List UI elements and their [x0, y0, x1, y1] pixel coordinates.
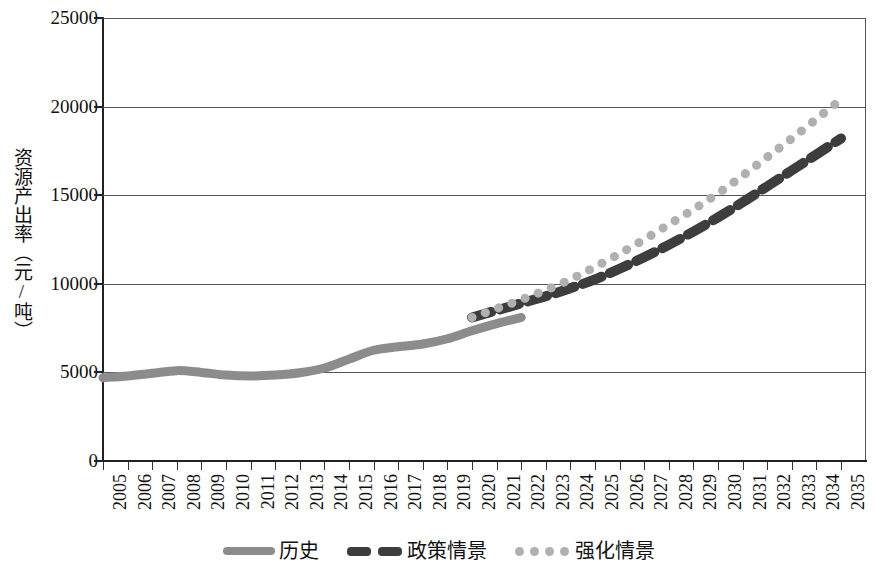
x-axis-tick-label: 2021	[505, 474, 523, 532]
x-axis-tick-label: 2022	[529, 474, 547, 532]
x-axis-tick-mark	[570, 462, 571, 470]
x-axis-tick-label: 2009	[209, 474, 227, 532]
x-axis-tick-label: 2016	[382, 474, 400, 532]
x-axis-tick-label: 2034	[824, 474, 842, 532]
y-axis-tick-mark	[94, 17, 103, 19]
x-axis-tick-mark	[497, 462, 498, 470]
x-axis-tick-label: 2027	[652, 474, 670, 532]
x-axis-tick-label: 2029	[701, 474, 719, 532]
x-axis-tick-label: 2011	[259, 474, 277, 532]
x-axis-tick-label: 2024	[578, 474, 596, 532]
x-axis-tick-mark	[718, 462, 719, 470]
y-axis-tick-mark	[94, 283, 103, 285]
x-axis-tick-mark	[447, 462, 448, 470]
x-axis-tick-mark	[349, 462, 350, 470]
legend-swatch-solid-icon	[223, 547, 275, 555]
x-axis-tick-label: 2017	[406, 474, 424, 532]
x-axis-tick-mark	[472, 462, 473, 470]
legend-entry[interactable]: 政策情景	[347, 541, 487, 561]
y-axis-tick-label: 0	[34, 451, 98, 470]
x-axis-tick-label: 2031	[751, 474, 769, 532]
y-axis-tick-mark	[94, 106, 103, 108]
y-axis-tick-mark	[94, 371, 103, 373]
x-axis-tick-mark	[423, 462, 424, 470]
x-axis-tick-mark	[275, 462, 276, 470]
x-axis-tick-mark	[398, 462, 399, 470]
x-axis-tick-label: 2014	[332, 474, 350, 532]
x-axis-tick-label: 2007	[160, 474, 178, 532]
chart-legend: 历史政策情景强化情景	[0, 536, 878, 566]
gridline	[103, 284, 866, 285]
x-axis-tick-mark	[546, 462, 547, 470]
x-axis-tick-mark	[693, 462, 694, 470]
y-axis-tick-label: 20000	[34, 97, 98, 116]
x-axis-tick-label: 2006	[136, 474, 154, 532]
gridline	[103, 107, 866, 108]
legend-label: 历史	[279, 541, 319, 561]
x-axis-tick-mark	[324, 462, 325, 470]
x-axis-tick-label: 2025	[603, 474, 621, 532]
legend-entry[interactable]: 强化情景	[515, 541, 655, 561]
x-axis-tick-mark	[792, 462, 793, 470]
plot-area	[103, 18, 866, 461]
x-axis-tick-mark	[226, 462, 227, 470]
x-axis-tick-mark	[201, 462, 202, 470]
x-axis-tick-mark	[816, 462, 817, 470]
resource-productivity-chart: 资源产出率（元/吨） 2500020000150001000050000 200…	[0, 0, 878, 567]
x-axis-tick-label: 2005	[111, 474, 129, 532]
gridline	[103, 372, 866, 373]
x-axis-tick-label: 2035	[849, 474, 867, 532]
y-axis-tick-labels: 2500020000150001000050000	[28, 0, 98, 480]
x-axis-tick-mark	[595, 462, 596, 470]
x-axis-tick-label: 2032	[775, 474, 793, 532]
x-axis-tick-label: 2008	[185, 474, 203, 532]
x-axis-tick-label: 2019	[455, 474, 473, 532]
legend-swatch-dashed-icon	[347, 547, 403, 556]
gridline	[103, 18, 866, 19]
x-axis-tick-mark	[374, 462, 375, 470]
x-axis-tick-label: 2033	[800, 474, 818, 532]
legend-entry[interactable]: 历史	[223, 541, 319, 561]
legend-label: 强化情景	[575, 541, 655, 561]
legend-swatch-dotted-icon	[515, 547, 571, 556]
x-axis-tick-label: 2015	[357, 474, 375, 532]
x-axis-tick-label: 2028	[677, 474, 695, 532]
x-axis-tick-mark	[669, 462, 670, 470]
plot-frame-right	[865, 18, 866, 461]
x-axis-tick-mark	[128, 462, 129, 470]
x-axis-tick-label: 2023	[554, 474, 572, 532]
y-axis-tick-label: 15000	[34, 185, 98, 204]
y-axis-tick-label: 25000	[34, 8, 98, 27]
x-axis-tick-mark	[152, 462, 153, 470]
x-axis-tick-label: 2020	[480, 474, 498, 532]
x-axis-tick-label: 2010	[234, 474, 252, 532]
x-axis-tick-mark	[767, 462, 768, 470]
x-axis-tick-mark	[644, 462, 645, 470]
y-axis-tick-label: 10000	[34, 274, 98, 293]
y-axis-tick-label: 5000	[34, 362, 98, 381]
x-axis-tick-mark	[620, 462, 621, 470]
x-axis-tick-mark	[841, 462, 842, 470]
x-axis-tick-mark	[521, 462, 522, 470]
x-axis-tick-mark	[743, 462, 744, 470]
y-axis-tick-mark	[94, 194, 103, 196]
x-axis-tick-mark	[177, 462, 178, 470]
x-axis-tick-label: 2013	[308, 474, 326, 532]
x-axis-tick-label: 2018	[431, 474, 449, 532]
x-axis-tick-label: 2030	[726, 474, 744, 532]
legend-label: 政策情景	[407, 541, 487, 561]
x-axis-tick-mark	[103, 462, 104, 470]
x-axis-tick-label: 2026	[628, 474, 646, 532]
x-axis-tick-mark	[251, 462, 252, 470]
gridline	[103, 195, 866, 196]
x-axis-line	[102, 460, 867, 462]
x-axis-tick-mark	[300, 462, 301, 470]
x-axis-tick-label: 2012	[283, 474, 301, 532]
